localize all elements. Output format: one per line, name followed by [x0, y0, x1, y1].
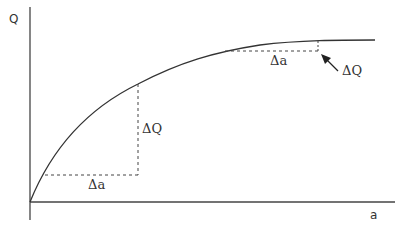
x-axis-label: a [370, 209, 377, 221]
upper-delta-q-label: ΔQ [342, 64, 362, 77]
diagram-canvas [0, 0, 400, 230]
q-curve [30, 40, 375, 202]
lower-delta-a-label: Δa [88, 178, 105, 191]
lower-delta-q-label: ΔQ [142, 122, 162, 135]
upper-delta-a-label: Δa [270, 54, 287, 67]
y-axis-label: Q [9, 13, 18, 25]
